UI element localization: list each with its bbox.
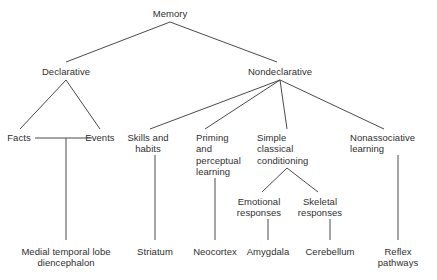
node-mtl: Medial temporal lobe diencephalon: [21, 246, 110, 269]
node-memory: Memory: [153, 8, 188, 19]
node-simple: Simple classical conditioning: [257, 132, 308, 166]
edge-memory-to-declarative: [66, 22, 170, 62]
edge-memory-to-nondeclarative: [170, 22, 277, 62]
edge-declarative-to-facts: [20, 80, 66, 129]
node-emotional: Emotional responses: [237, 196, 281, 219]
node-events: Events: [85, 132, 114, 143]
edge-declarative-to-events: [66, 80, 100, 129]
edge-nondeclarative-to-skills: [150, 80, 280, 129]
edge-nondeclarative-to-simple: [280, 80, 287, 129]
node-cerebellum: Cerebellum: [305, 246, 354, 257]
memory-taxonomy-diagram: MemoryDeclarativeNondeclarativeFactsEven…: [0, 0, 437, 280]
node-striatum: Striatum: [137, 246, 173, 257]
node-facts: Facts: [7, 132, 30, 143]
node-skeletal: Skeletal responses: [298, 196, 342, 219]
node-amygdala: Amygdala: [247, 246, 290, 257]
edge-simple-to-emotional: [262, 168, 287, 192]
node-nondeclarative: Nondeclarative: [248, 66, 312, 77]
node-reflex: Reflex pathways: [378, 246, 419, 269]
node-skills: Skills and habits: [127, 132, 168, 155]
node-neocortex: Neocortex: [193, 246, 237, 257]
edge-nondeclarative-to-nonassociative: [280, 80, 384, 129]
node-priming: Priming and perceptual learning: [196, 132, 241, 178]
edge-simple-to-skeletal: [287, 168, 318, 192]
node-nonassociative: Nonassociative learning: [350, 132, 415, 155]
node-declarative: Declarative: [42, 66, 90, 77]
